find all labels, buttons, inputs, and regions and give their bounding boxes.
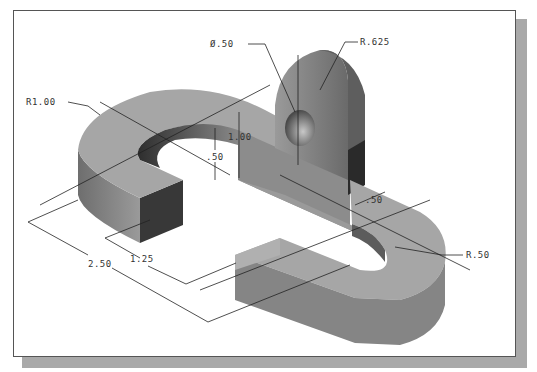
dim-slot-width-label: .50 <box>365 195 383 205</box>
dim-overall-width-label: 2.50 <box>88 259 112 269</box>
dim-r50-label: R.50 <box>466 250 490 260</box>
dim-arm-width-label: 1.25 <box>130 254 154 264</box>
dim-r625-label: R.625 <box>360 37 390 47</box>
dim-base-thickness-label: .50 <box>206 152 224 162</box>
dim-r100-label: R1.00 <box>26 97 56 107</box>
dim-lug-height-label: 1.00 <box>228 132 252 142</box>
through-hole <box>285 110 315 146</box>
dim-hole-diameter-label: Ø.50 <box>210 39 234 49</box>
isometric-part-drawing: R1.00 Ø.50 R.625 1.00 .50 .50 R.50 2.50 … <box>0 0 537 372</box>
